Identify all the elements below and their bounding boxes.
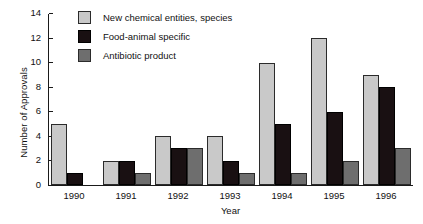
bar <box>187 148 203 185</box>
y-axis-tick-label: 12 <box>30 32 41 43</box>
legend-item-label: New chemical entities, species <box>103 12 232 23</box>
bar <box>291 173 307 185</box>
x-axis-tick-label: 1996 <box>360 190 412 201</box>
y-axis-tick-label: 6 <box>36 105 41 116</box>
y-axis-title: Number of Approvals <box>18 38 29 188</box>
bar <box>223 161 239 185</box>
bar-group <box>257 14 309 185</box>
bar <box>155 136 171 185</box>
legend-item-label: Food-animal specific <box>103 31 190 42</box>
bar <box>311 38 327 185</box>
y-axis-tick-label: 8 <box>36 81 41 92</box>
bar <box>363 75 379 185</box>
y-axis-tick: 0 <box>48 185 54 186</box>
bar <box>67 173 83 185</box>
y-axis-tick-mark <box>49 185 53 186</box>
bar <box>379 87 395 185</box>
legend-item: Food-animal specific <box>78 27 232 46</box>
x-axis-tick-label: 1993 <box>204 190 256 201</box>
x-axis-tick-label: 1991 <box>100 190 152 201</box>
bar <box>207 136 223 185</box>
bar <box>259 63 275 185</box>
bar <box>395 148 411 185</box>
bar-chart: Number of Approvals 02468101214 19901991… <box>0 0 423 224</box>
legend-item-label: Antibiotic product <box>103 50 176 61</box>
y-axis-tick-label: 0 <box>36 179 41 190</box>
bar <box>239 173 255 185</box>
legend-swatch-icon <box>78 49 91 62</box>
bar <box>343 161 359 185</box>
bar <box>119 161 135 185</box>
bar <box>51 124 67 185</box>
bar <box>135 173 151 185</box>
chart-legend: New chemical entities, speciesFood-anima… <box>78 8 232 65</box>
y-axis-tick-label: 14 <box>30 7 41 18</box>
bar <box>103 161 119 185</box>
legend-swatch-icon <box>78 30 91 43</box>
x-axis-title: Year <box>48 205 413 216</box>
bar <box>275 124 291 185</box>
x-axis-tick-label: 1994 <box>256 190 308 201</box>
legend-item: Antibiotic product <box>78 46 232 65</box>
x-axis-tick-label: 1995 <box>308 190 360 201</box>
legend-item: New chemical entities, species <box>78 8 232 27</box>
y-axis-tick-label: 4 <box>36 130 41 141</box>
x-axis-tick-label: 1990 <box>48 190 100 201</box>
legend-swatch-icon <box>78 11 91 24</box>
x-axis-line <box>48 185 413 186</box>
bar-group <box>309 14 361 185</box>
bar <box>327 112 343 185</box>
bar-group <box>361 14 413 185</box>
x-axis-tick-label: 1992 <box>152 190 204 201</box>
y-axis-tick-label: 2 <box>36 154 41 165</box>
bar <box>171 148 187 185</box>
y-axis-tick-label: 10 <box>30 56 41 67</box>
